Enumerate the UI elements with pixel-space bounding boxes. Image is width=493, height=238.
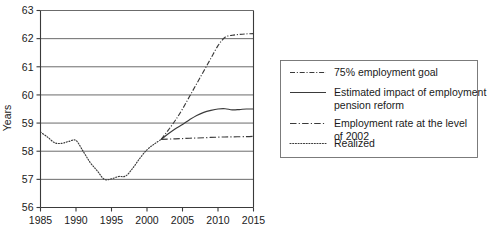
legend-label-0: 75% employment goal	[334, 66, 438, 78]
ytick-label-56: 56	[22, 201, 34, 213]
xtick-label-2010: 2010	[206, 214, 230, 226]
ytick-label-62: 62	[22, 32, 34, 44]
gridlines-group	[41, 11, 254, 180]
y-axis-title: Years	[1, 105, 13, 131]
ytick-label-58: 58	[22, 145, 34, 157]
ytick-label-61: 61	[22, 61, 34, 73]
series-line-2	[161, 136, 253, 139]
y-tick-labels: 5657585960616263	[22, 4, 34, 213]
ytick-label-60: 60	[22, 89, 34, 101]
x-tick-labels: 1985199019952000200520102015	[29, 214, 266, 226]
xtick-label-2000: 2000	[135, 214, 159, 226]
xtick-label-2005: 2005	[171, 214, 195, 226]
legend-label-2: Employment rate at the level	[334, 117, 467, 129]
series-line-3	[41, 132, 162, 180]
chart-figure: 5657585960616263 19851990199520002005201…	[0, 0, 493, 238]
legend-label-1-line2: pension reform	[334, 99, 404, 111]
xtick-label-2015: 2015	[242, 214, 266, 226]
ytick-label-57: 57	[22, 173, 34, 185]
legend-label-3: Realized	[334, 137, 375, 149]
xtick-label-1995: 1995	[100, 214, 124, 226]
series-line-1	[161, 109, 253, 140]
xtick-label-1990: 1990	[64, 214, 88, 226]
legend-label-1: Estimated impact of employment	[334, 86, 486, 98]
legend-group: 75% employment goalEstimated impact of e…	[290, 66, 486, 149]
ytick-label-63: 63	[22, 4, 34, 16]
tick-marks-group	[37, 11, 254, 212]
xtick-label-1985: 1985	[29, 214, 53, 226]
employment-line-chart: 5657585960616263 19851990199520002005201…	[0, 0, 493, 238]
ytick-label-59: 59	[22, 117, 34, 129]
series-group	[41, 34, 254, 180]
